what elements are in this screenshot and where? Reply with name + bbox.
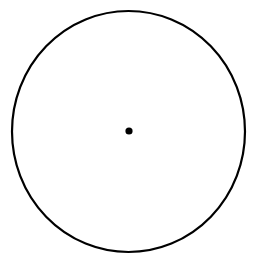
figure-canvas <box>0 0 254 260</box>
circle-diagram-svg <box>0 0 254 260</box>
center-point-dot <box>125 127 132 134</box>
